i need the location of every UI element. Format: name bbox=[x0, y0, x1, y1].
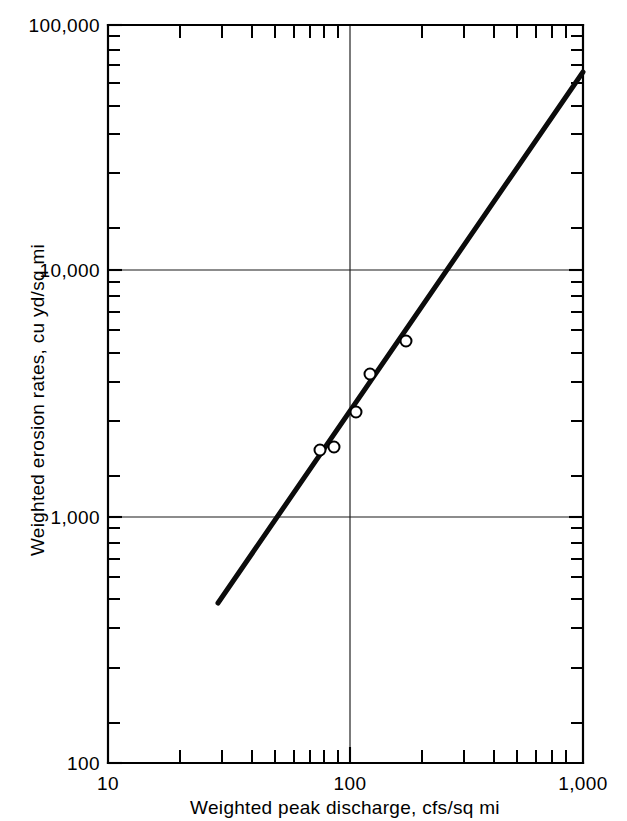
data-point-marker bbox=[315, 445, 326, 456]
y-tick-label-10000: 10,000 bbox=[39, 260, 100, 281]
y-tick-label-100000: 100,000 bbox=[29, 15, 100, 36]
data-point-marker bbox=[401, 336, 412, 347]
log-log-scatter-chart: 100,000 10,000 1,000 100 10 100 1,000 We… bbox=[0, 0, 627, 821]
plot-frame bbox=[108, 25, 583, 763]
y-axis-ticks bbox=[108, 25, 583, 763]
chart-figure: 100,000 10,000 1,000 100 10 100 1,000 We… bbox=[0, 0, 627, 821]
data-point-marker bbox=[329, 442, 340, 453]
data-point-marker bbox=[365, 369, 376, 380]
x-axis-title: Weighted peak discharge, cfs/sq mi bbox=[190, 797, 500, 818]
x-tick-label-100: 100 bbox=[334, 773, 367, 794]
y-tick-label-1000: 1,000 bbox=[50, 507, 100, 528]
data-point-marker bbox=[351, 407, 362, 418]
regression-trend-line bbox=[218, 72, 583, 603]
x-axis-ticks bbox=[180, 25, 566, 763]
grid-lines bbox=[108, 25, 583, 763]
x-tick-label-1000: 1,000 bbox=[558, 773, 608, 794]
y-tick-label-100: 100 bbox=[67, 753, 100, 774]
x-tick-label-10: 10 bbox=[97, 773, 119, 794]
y-axis-title: Weighted erosion rates, cu yd/sq mi bbox=[27, 244, 48, 556]
